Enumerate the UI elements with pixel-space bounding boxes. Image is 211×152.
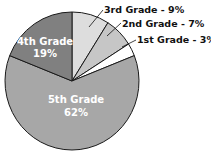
callout-3rd-grade: 3rd Grade - 9% <box>104 4 185 15</box>
label-5th-grade-value: 62% <box>64 107 88 118</box>
callout-2nd-grade: 2nd Grade - 7% <box>122 18 205 29</box>
label-4th-grade-value: 19% <box>33 48 57 59</box>
label-4th-grade-name: 4th Grade <box>17 36 73 47</box>
callout-1st-grade: 1st Grade - 3% <box>137 34 211 45</box>
pie-slices <box>5 12 139 150</box>
label-5th-grade-name: 5th Grade <box>48 94 104 105</box>
pie-chart: 4th Grade 19% 5th Grade 62% 3rd Grade - … <box>0 0 211 152</box>
